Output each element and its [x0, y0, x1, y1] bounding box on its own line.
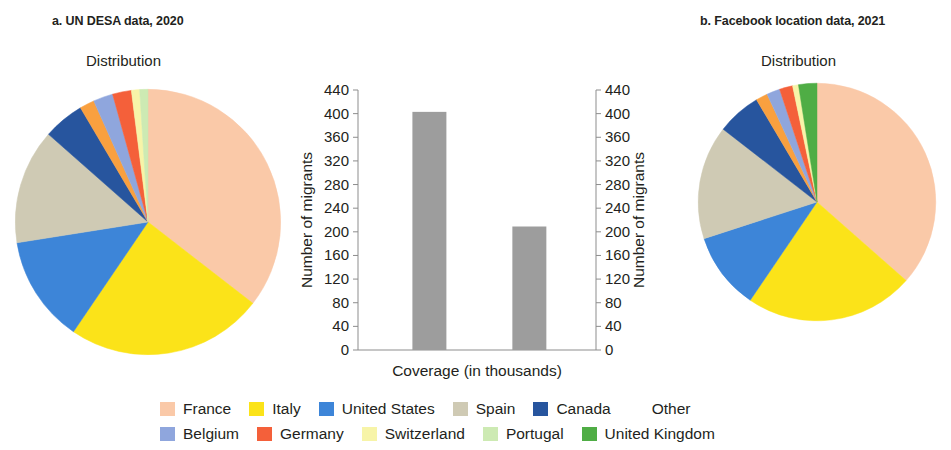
y-tick-label-right: 40 — [605, 317, 622, 334]
bar-chart-svg: 0040408080120120160160200200240240280280… — [296, 82, 656, 382]
y-tick-label-right: 120 — [605, 270, 630, 287]
y-tick-label-left: 360 — [324, 128, 349, 145]
y-tick-label-right: 240 — [605, 199, 630, 216]
panel-a-subtitle: Distribution — [86, 52, 161, 69]
y-tick-label-left: 80 — [332, 294, 349, 311]
legend-row: BelgiumGermanySwitzerlandPortugalUnited … — [160, 421, 880, 446]
legend-item-spain: Spain — [453, 401, 516, 417]
legend-item-canada: Canada — [533, 401, 610, 417]
y-tick-label-right: 80 — [605, 294, 622, 311]
legend-item-united-states: United States — [319, 401, 435, 417]
x-axis-label: Coverage (in thousands) — [392, 362, 562, 379]
legend-item-other: Other — [629, 401, 691, 417]
legend-item-united-kingdom: United Kingdom — [582, 426, 715, 442]
legend-row: FranceItalyUnited StatesSpainCanadaOther — [160, 396, 880, 421]
legend-label: United Kingdom — [605, 426, 715, 442]
y-axis-label-right: Number of migrants — [630, 152, 647, 288]
y-tick-label-left: 40 — [332, 317, 349, 334]
pie-chart-un-desa — [14, 88, 282, 356]
legend-item-france: France — [160, 401, 231, 417]
y-tick-label-left: 280 — [324, 176, 349, 193]
legend-item-portugal: Portugal — [483, 426, 564, 442]
pie-b-svg — [697, 82, 937, 322]
legend-swatch-icon — [582, 427, 597, 441]
y-tick-label-left: 160 — [324, 246, 349, 263]
y-tick-label-left: 120 — [324, 270, 349, 287]
legend-swatch-icon — [257, 427, 272, 441]
y-tick-label-left: 240 — [324, 199, 349, 216]
legend-swatch-icon — [160, 402, 175, 416]
bar-2 — [512, 227, 546, 351]
y-tick-label-right: 200 — [605, 223, 630, 240]
panel-b-title: b. Facebook location data, 2021 — [700, 14, 885, 28]
y-tick-label-left: 440 — [324, 82, 349, 98]
y-tick-label-right: 400 — [605, 105, 630, 122]
legend-label: Other — [652, 401, 691, 417]
legend-swatch-icon — [453, 402, 468, 416]
legend-swatch-icon — [629, 402, 644, 416]
legend-label: France — [183, 401, 231, 417]
legend-label: United States — [342, 401, 435, 417]
pie-a-slices — [15, 89, 280, 354]
y-tick-label-left: 0 — [341, 341, 349, 358]
y-tick-label-right: 320 — [605, 152, 630, 169]
y-tick-label-right: 360 — [605, 128, 630, 145]
bar-chart-content: 0040408080120120160160200200240240280280… — [298, 82, 647, 379]
y-tick-label-right: 440 — [605, 82, 630, 98]
legend-swatch-icon — [362, 427, 377, 441]
legend-swatch-icon — [533, 402, 548, 416]
legend-label: Belgium — [183, 426, 239, 442]
y-tick-label-right: 0 — [605, 341, 613, 358]
pie-a-svg — [14, 88, 282, 356]
legend-label: Germany — [280, 426, 344, 442]
legend-item-belgium: Belgium — [160, 426, 239, 442]
pie-b-slices — [698, 83, 936, 321]
legend-label: Switzerland — [385, 426, 465, 442]
y-axis-label-left: Number of migrants — [298, 152, 315, 288]
panel-a-title: a. UN DESA data, 2020 — [52, 14, 184, 28]
legend-label: Spain — [476, 401, 516, 417]
y-tick-label-left: 320 — [324, 152, 349, 169]
y-tick-label-right: 160 — [605, 246, 630, 263]
y-tick-label-left: 400 — [324, 105, 349, 122]
legend-swatch-icon — [319, 402, 334, 416]
y-tick-label-right: 280 — [605, 176, 630, 193]
legend-item-italy: Italy — [249, 401, 300, 417]
legend-label: Italy — [272, 401, 300, 417]
legend-swatch-icon — [249, 402, 264, 416]
legend-swatch-icon — [483, 427, 498, 441]
chart-legend: FranceItalyUnited StatesSpainCanadaOther… — [160, 396, 880, 446]
bar-chart-coverage: 0040408080120120160160200200240240280280… — [296, 82, 656, 382]
legend-swatch-icon — [160, 427, 175, 441]
bar-1 — [412, 112, 446, 350]
legend-item-switzerland: Switzerland — [362, 426, 465, 442]
legend-label: Portugal — [506, 426, 564, 442]
legend-item-germany: Germany — [257, 426, 344, 442]
panel-b-subtitle: Distribution — [761, 52, 836, 69]
legend-label: Canada — [556, 401, 610, 417]
y-tick-label-left: 200 — [324, 223, 349, 240]
pie-chart-facebook — [697, 82, 937, 322]
